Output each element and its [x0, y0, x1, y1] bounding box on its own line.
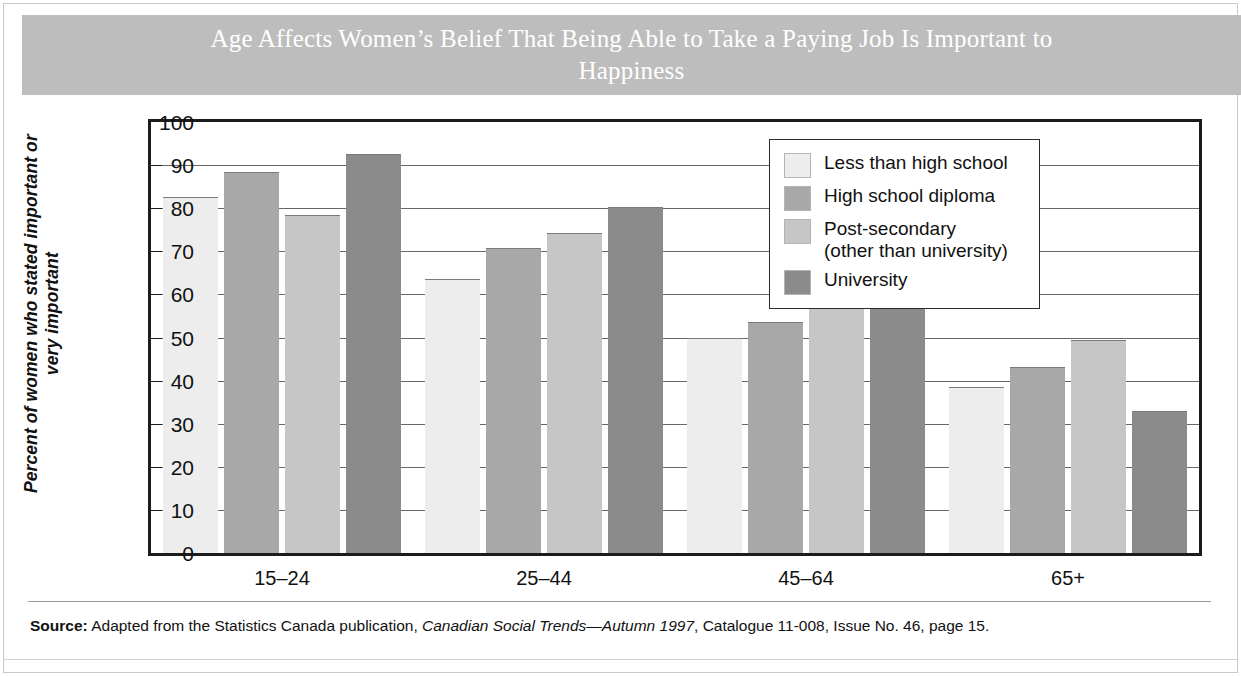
- y-tick-label: 60: [134, 284, 194, 305]
- y-tick-label: 80: [134, 198, 194, 219]
- legend-swatch: [784, 219, 811, 244]
- legend-swatch: [784, 153, 811, 178]
- x-tick-label: 65+: [1051, 567, 1085, 590]
- y-tick-label: 0: [134, 543, 194, 564]
- bar: [949, 387, 1004, 553]
- source-publication: Canadian Social Trends—Autumn 1997: [422, 617, 694, 634]
- y-axis-title: Percent of women who stated important or…: [21, 124, 62, 504]
- bar: [224, 172, 279, 553]
- bar: [285, 215, 340, 553]
- gridline: [151, 208, 1199, 209]
- chart-area: Percent of women who stated important or…: [0, 101, 1241, 601]
- y-tick-label: 100: [134, 112, 194, 133]
- x-tick-label: 15–24: [254, 567, 310, 590]
- bar: [1071, 340, 1126, 553]
- legend-label: Post-secondary (other than university): [824, 218, 1008, 262]
- legend-item: Less than high school: [784, 152, 1025, 178]
- y-tick-label: 90: [134, 155, 194, 176]
- y-tick-label: 40: [134, 370, 194, 391]
- legend-item: High school diploma: [784, 185, 1025, 211]
- legend-item: Post-secondary (other than university): [784, 218, 1025, 262]
- legend-label: High school diploma: [824, 185, 995, 207]
- gridline: [151, 165, 1199, 166]
- bottom-divider: [3, 659, 1238, 660]
- source-label: Source:: [30, 617, 88, 634]
- bar: [687, 338, 742, 554]
- legend: Less than high schoolHigh school diploma…: [769, 139, 1040, 309]
- legend-label: Less than high school: [824, 152, 1008, 174]
- bar: [346, 154, 401, 553]
- bar: [486, 248, 541, 553]
- source-text-before: Adapted from the Statistics Canada publi…: [91, 617, 422, 634]
- source-text-after: , Catalogue 11-008, Issue No. 46, page 1…: [694, 617, 989, 634]
- legend-label: University: [824, 269, 907, 291]
- page-title: Age Affects Women’s Belief That Being Ab…: [202, 23, 1062, 87]
- y-tick-label: 70: [134, 241, 194, 262]
- bar: [608, 207, 663, 553]
- y-tick-label: 10: [134, 499, 194, 520]
- chart-figure: Age Affects Women’s Belief That Being Ab…: [0, 0, 1241, 676]
- x-tick-label: 25–44: [516, 567, 572, 590]
- legend-swatch: [784, 270, 811, 295]
- y-tick-label: 30: [134, 413, 194, 434]
- x-tick-label: 45–64: [778, 567, 834, 590]
- plot-inner: [151, 122, 1199, 553]
- title-band: Age Affects Women’s Belief That Being Ab…: [22, 15, 1241, 95]
- source-note: Source: Adapted from the Statistics Cana…: [30, 617, 989, 635]
- bar: [1010, 367, 1065, 553]
- source-divider: [28, 601, 1211, 602]
- bar: [547, 233, 602, 553]
- y-tick-label: 20: [134, 456, 194, 477]
- bar: [748, 322, 803, 553]
- legend-item: University: [784, 269, 1025, 295]
- y-tick-label: 50: [134, 327, 194, 348]
- bar: [809, 294, 864, 553]
- bar: [1132, 411, 1187, 553]
- plot-frame: [148, 119, 1202, 556]
- legend-swatch: [784, 186, 811, 211]
- bar: [425, 279, 480, 553]
